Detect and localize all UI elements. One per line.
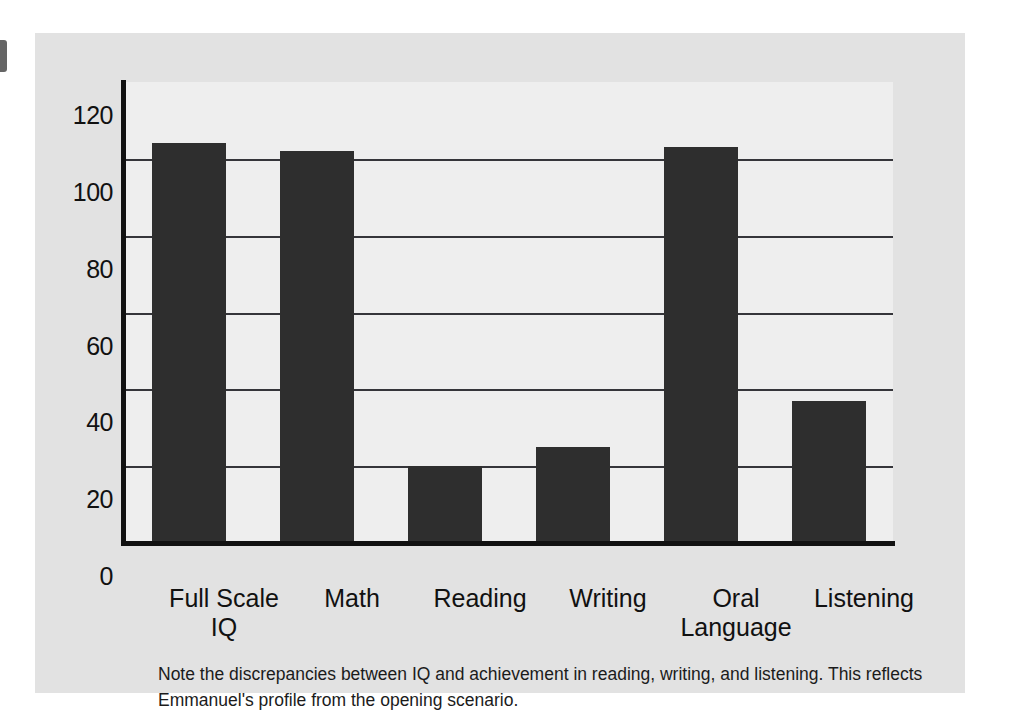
- bar: [792, 401, 866, 543]
- y-tick-label: 60: [35, 331, 113, 360]
- x-tick-label: Full Scale IQ: [160, 584, 288, 642]
- figure-panel: 020406080100120 Full Scale IQMathReading…: [35, 33, 965, 693]
- y-axis-tick-labels: 020406080100120: [35, 115, 113, 576]
- y-axis-line: [121, 80, 126, 545]
- plot-area: [125, 82, 893, 543]
- bar: [664, 147, 738, 543]
- y-tick-label: 120: [35, 101, 113, 130]
- bar: [152, 143, 226, 543]
- bar: [280, 151, 354, 543]
- y-tick-label: 100: [35, 177, 113, 206]
- x-tick-label: Writing: [544, 584, 672, 613]
- bar: [536, 447, 610, 543]
- y-tick-label: 0: [35, 562, 113, 591]
- x-tick-label: Math: [288, 584, 416, 613]
- gridline: [125, 313, 893, 315]
- y-tick-label: 80: [35, 254, 113, 283]
- x-tick-label: Listening: [800, 584, 928, 613]
- x-tick-label: Reading: [416, 584, 544, 613]
- y-tick-label: 40: [35, 408, 113, 437]
- gridline: [125, 389, 893, 391]
- figure-caption: Note the discrepancies between IQ and ac…: [158, 661, 948, 713]
- x-tick-label: Oral Language: [672, 584, 800, 642]
- x-axis-category-labels: Full Scale IQMathReadingWritingOral Lang…: [160, 584, 928, 654]
- gridline: [125, 236, 893, 238]
- gridline: [125, 466, 893, 468]
- y-tick-label: 20: [35, 485, 113, 514]
- page-edge-mark: [0, 40, 7, 72]
- x-axis-line: [121, 541, 895, 546]
- bar: [408, 466, 482, 543]
- gridline: [125, 159, 893, 161]
